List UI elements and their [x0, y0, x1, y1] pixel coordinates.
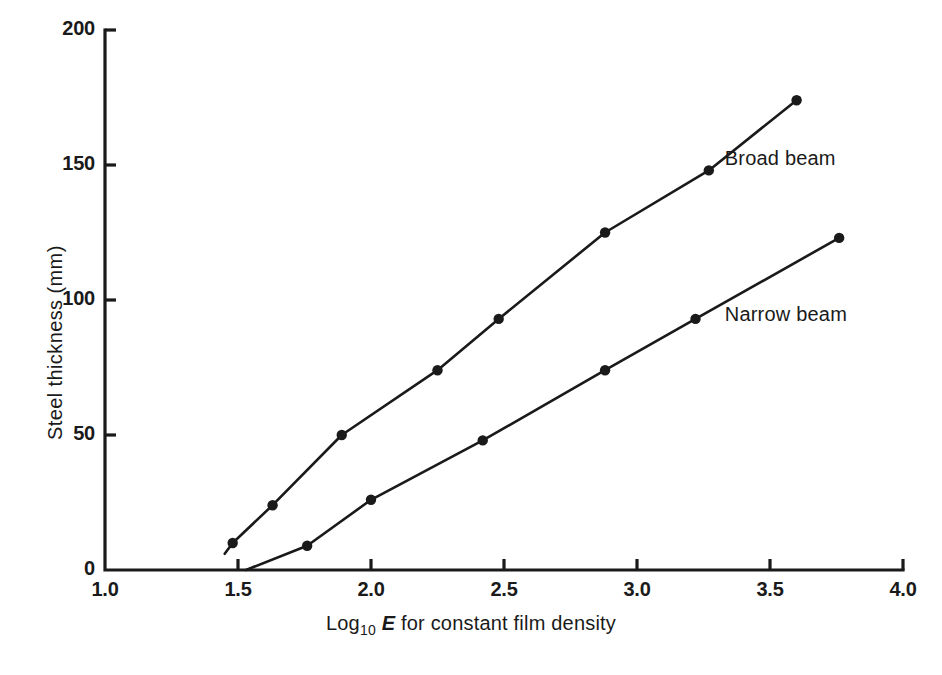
data-point-marker: [478, 435, 488, 445]
x-tick-label: 2.5: [464, 578, 544, 601]
y-tick-label: 200: [62, 17, 95, 40]
data-point-marker: [337, 430, 347, 440]
y-tick-label: 0: [84, 557, 95, 580]
data-point-marker: [493, 314, 503, 324]
y-axis-title: Steel thickness (mm): [44, 245, 67, 440]
data-point-marker: [600, 365, 610, 375]
data-point-marker: [834, 233, 844, 243]
x-axis-title-subscript: 10: [360, 622, 376, 638]
data-point-marker: [600, 227, 610, 237]
data-point-marker: [704, 165, 714, 175]
data-point-marker: [227, 538, 237, 548]
x-axis-title-prefix: Log: [326, 612, 360, 634]
series-line-0: [225, 98, 800, 554]
series-label-narrow-beam: Narrow beam: [725, 303, 847, 326]
x-axis-title-italic-symbol: E: [376, 612, 395, 634]
x-tick-label: 4.0: [863, 578, 942, 601]
x-tick-label: 1.5: [198, 578, 278, 601]
data-point-marker: [432, 365, 442, 375]
chart-plot-area: [0, 0, 942, 675]
x-axis-title: Log10 E for constant film density: [0, 612, 942, 638]
data-point-marker: [791, 95, 801, 105]
x-tick-label: 2.0: [331, 578, 411, 601]
y-tick-label: 150: [62, 152, 95, 175]
x-tick-label: 1.0: [65, 578, 145, 601]
figure-canvas: 050100150200 1.01.52.02.53.03.54.0 Steel…: [0, 0, 942, 675]
data-point-marker: [690, 314, 700, 324]
x-axis-title-suffix: for constant film density: [395, 612, 616, 634]
x-tick-label: 3.5: [730, 578, 810, 601]
data-point-marker: [366, 495, 376, 505]
y-tick-label: 50: [73, 422, 95, 445]
y-tick-label: 100: [62, 287, 95, 310]
x-tick-label: 3.0: [597, 578, 677, 601]
data-point-marker: [267, 500, 277, 510]
series-line-1: [246, 235, 842, 570]
series-label-broad-beam: Broad beam: [725, 147, 836, 170]
data-point-marker: [302, 541, 312, 551]
